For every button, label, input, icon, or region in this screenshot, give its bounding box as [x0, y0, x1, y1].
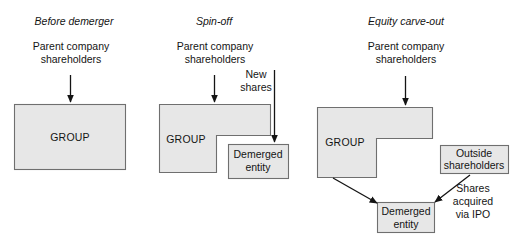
arrow-group-to-demerged-entity-panel3 [333, 178, 377, 203]
demerged-entity-label-line2-panel3: entity [393, 218, 419, 230]
panel-title-spin-off: Spin-off [196, 15, 233, 27]
group-box-label-panel1: GROUP [50, 131, 90, 143]
new-shares-label-line1: New [245, 68, 266, 80]
panel-equity-carve-out: Equity carve-out Parent company sharehol… [318, 15, 509, 233]
shareholders-label-line1-panel3: Parent company [368, 40, 445, 52]
panel-spin-off: Spin-off Parent company shareholders New… [160, 15, 289, 179]
demerger-diagram: Before demerger Parent company sharehold… [0, 0, 519, 241]
shareholders-label-line2-panel3: shareholders [376, 53, 437, 65]
demerged-entity-label-line1-panel3: Demerged [381, 205, 430, 217]
panel-title-equity-carve-out: Equity carve-out [368, 15, 445, 27]
group-box-label-panel3: GROUP [325, 136, 365, 148]
ipo-note-line3: via IPO [456, 208, 490, 220]
panel-title-before-demerger: Before demerger [35, 15, 114, 27]
shareholders-label-line2-panel1: shareholders [41, 53, 102, 65]
ipo-note-line1: Shares [456, 182, 489, 194]
shareholders-label-line2-panel2: shareholders [185, 53, 246, 65]
panel-before-demerger: Before demerger Parent company sharehold… [15, 15, 126, 170]
ipo-note-line2: acquired [453, 195, 493, 207]
outside-shareholders-label-line2: shareholders [444, 159, 505, 171]
group-box-label-panel2: GROUP [166, 133, 206, 145]
shareholders-label-line1-panel2: Parent company [177, 40, 254, 52]
shareholders-label-line1-panel1: Parent company [33, 40, 110, 52]
demerged-entity-label-line2-panel2: entity [245, 161, 271, 173]
outside-shareholders-label-line1: Outside [456, 147, 492, 159]
demerged-entity-label-line1-panel2: Demerged [233, 148, 282, 160]
new-shares-label-line2: shares [240, 81, 272, 93]
diagram-canvas: Before demerger Parent company sharehold… [0, 0, 519, 241]
